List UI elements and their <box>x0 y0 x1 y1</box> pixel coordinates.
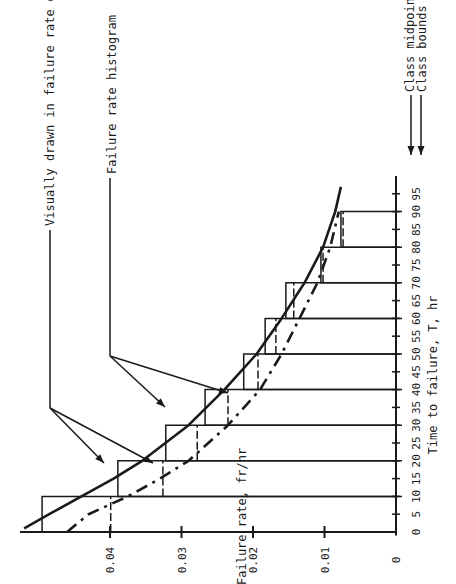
time-tick-label: 45 <box>410 365 423 378</box>
x-axis-label: Time to failure, T, hr <box>426 296 440 455</box>
failure-rate-curve-solid <box>24 187 341 529</box>
time-tick-label: 10 <box>410 490 423 503</box>
annotation-class-bounds: Class bounds <box>415 5 429 92</box>
time-tick-label: 60 <box>410 312 423 325</box>
class-midpoints-arrow-head <box>408 146 415 155</box>
failure-rate-chart: 0510152025303540455055606570758085909500… <box>0 0 456 584</box>
time-tick-label: 75 <box>410 258 423 271</box>
annotation-histogram: Failure rate histogram <box>105 15 119 174</box>
time-tick-label: 50 <box>410 347 423 360</box>
time-tick-label: 90 <box>410 205 423 218</box>
annotation-curve-arrow-dashed <box>50 408 153 463</box>
time-tick-label: 55 <box>410 330 423 343</box>
histogram-bar <box>42 496 402 532</box>
rate-tick-label: 0.03 <box>176 547 189 574</box>
histogram-bar <box>166 425 402 461</box>
y-axis-label: Failure rate, fr/hr <box>235 448 249 584</box>
time-tick-label: 20 <box>410 454 423 467</box>
annotation-hist-arrow-1 <box>110 356 165 407</box>
plot-area: 0510152025303540455055606570758085909500… <box>20 95 425 573</box>
time-tick-label: 30 <box>410 419 423 432</box>
annotation-curve-arrow-solid <box>50 408 104 463</box>
time-tick-label: 40 <box>410 383 423 396</box>
histogram-bar <box>321 247 402 283</box>
time-tick-label: 25 <box>410 436 423 449</box>
time-tick-label: 0 <box>410 529 423 536</box>
histogram-bar <box>205 390 402 426</box>
annotation-curve: Visually drawn in failure rate curve <box>43 0 57 226</box>
failure-rate-curve-dashed <box>67 212 339 532</box>
rate-tick-label: 0 <box>390 557 403 564</box>
time-tick-label: 15 <box>410 472 423 485</box>
time-tick-label: 80 <box>410 241 423 254</box>
histogram-bar <box>244 354 402 390</box>
time-tick-label: 70 <box>410 276 423 289</box>
time-tick-label: 85 <box>410 223 423 236</box>
time-tick-label: 35 <box>410 401 423 414</box>
rate-tick-label: 0.01 <box>319 547 332 574</box>
rate-tick-label: 0.04 <box>104 546 117 573</box>
time-tick-label: 95 <box>410 187 423 200</box>
time-tick-label: 65 <box>410 294 423 307</box>
annotation-hist-arrow-2 <box>110 356 228 393</box>
time-tick-label: 5 <box>410 511 423 518</box>
class-bounds-arrow-head <box>418 146 425 155</box>
